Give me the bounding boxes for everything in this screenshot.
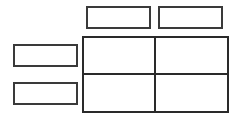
matrix-cell-2-2	[156, 75, 228, 112]
row-header-2-label	[15, 84, 76, 103]
matrix-cell-1-1	[84, 38, 156, 75]
column-header-1-label	[88, 8, 149, 27]
row-header-1-label	[15, 46, 76, 65]
matrix-cell-2-2-label	[156, 75, 228, 112]
column-header-1	[86, 6, 151, 29]
matrix-cell-1-2	[156, 38, 228, 75]
matrix-cell-1-2-label	[156, 38, 228, 73]
matrix-grid	[82, 36, 229, 113]
row-header-2	[13, 82, 78, 105]
matrix-cell-1-1-label	[84, 38, 154, 73]
column-header-2	[158, 6, 223, 29]
matrix-cell-2-1	[84, 75, 156, 112]
column-header-2-label	[160, 8, 221, 27]
matrix-cell-2-1-label	[84, 75, 154, 112]
row-header-1	[13, 44, 78, 67]
